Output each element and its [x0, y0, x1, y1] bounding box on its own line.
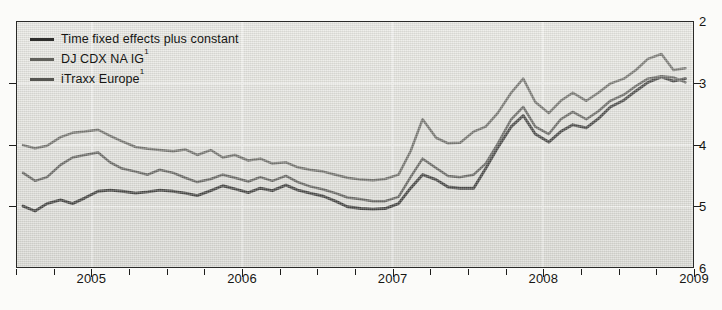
- y-tick-mark: [694, 206, 701, 207]
- chart-legend: Time fixed effects plus constantDJ CDX N…: [30, 32, 239, 87]
- x-tick-mark: [91, 269, 92, 277]
- x-tick-mark: [393, 269, 394, 277]
- legend-swatch-icon: [30, 38, 54, 41]
- x-tick-mark-minor: [468, 269, 469, 275]
- x-tick-mark-minor: [167, 269, 168, 275]
- series-line-1: [23, 77, 685, 211]
- legend-item-3: iTraxx Europe1: [30, 72, 239, 87]
- x-tick-mark-minor: [656, 269, 657, 275]
- x-tick-mark-minor: [619, 269, 620, 275]
- x-tick-mark-minor: [280, 269, 281, 275]
- legend-swatch-icon: [30, 78, 54, 81]
- legend-label: DJ CDX NA IG1: [61, 53, 149, 66]
- legend-label: Time fixed effects plus constant: [61, 33, 239, 46]
- x-tick-mark-minor: [204, 269, 205, 275]
- series-line-3: [23, 76, 685, 201]
- x-tick-mark: [242, 269, 243, 277]
- legend-footnote-marker: 1: [144, 47, 149, 56]
- y-tick-mark-left: [9, 206, 16, 207]
- legend-footnote-marker: 1: [140, 67, 145, 76]
- x-tick-mark-minor: [54, 269, 55, 275]
- x-tick-mark-minor: [317, 269, 318, 275]
- legend-swatch-icon: [30, 58, 54, 61]
- y-tick-mark: [694, 145, 701, 146]
- legend-label: iTraxx Europe1: [61, 73, 144, 86]
- x-tick-mark-minor: [506, 269, 507, 275]
- y-tick-label: 2: [699, 15, 706, 28]
- x-tick-mark-minor: [430, 269, 431, 275]
- legend-item-1: Time fixed effects plus constant: [30, 32, 239, 47]
- x-tick-mark-minor: [355, 269, 356, 275]
- x-tick-mark: [543, 269, 544, 277]
- x-tick-mark-minor: [581, 269, 582, 275]
- y-tick-mark-left: [9, 145, 16, 146]
- y-tick-mark-left: [9, 83, 16, 84]
- legend-item-2: DJ CDX NA IG1: [30, 52, 239, 67]
- x-tick-mark-minor: [129, 269, 130, 275]
- x-tick-mark-minor: [16, 269, 17, 275]
- y-tick-mark: [694, 83, 701, 84]
- x-tick-mark: [694, 269, 695, 277]
- chart-figure: Time fixed effects plus constantDJ CDX N…: [0, 0, 722, 310]
